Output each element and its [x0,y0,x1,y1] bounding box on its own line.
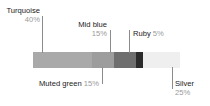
bar-segment-mid-blue[interactable] [114,52,136,68]
bar-segment-turquoise[interactable] [33,52,92,68]
leader-line-mid-blue [110,30,111,53]
callout-mid-blue-label: Mid blue [60,20,107,29]
stacked-bar [33,52,180,68]
leader-line-ruby [129,30,130,53]
callout-ruby-percent: 5% [153,29,164,38]
callout-silver-percent: 25% [175,88,209,97]
bar-segment-muted-green[interactable] [92,52,114,68]
callout-ruby[interactable]: Ruby 5% [133,29,164,38]
callout-turquoise[interactable]: Turquoise 40% [0,6,40,25]
leader-line-turquoise [42,16,43,53]
callout-turquoise-percent: 40% [0,15,40,24]
callout-turquoise-label: Turquoise [0,6,40,15]
bar-segment-silver[interactable] [143,52,180,68]
callout-silver[interactable]: Silver 25% [175,79,209,98]
callout-muted-green-percent: 15% [84,79,99,88]
callout-muted-green-label: Muted green [39,79,82,88]
callout-silver-label: Silver [175,79,209,88]
chart-canvas: Turquoise 40% Mid blue 15% Ruby 5% Muted… [0,0,210,106]
callout-mid-blue-percent: 15% [60,29,107,38]
leader-line-silver [172,67,173,89]
callout-mid-blue[interactable]: Mid blue 15% [60,20,107,39]
leader-line-muted-green [102,67,103,84]
callout-muted-green[interactable]: Muted green 15% [18,79,99,88]
bar-segment-ruby[interactable] [136,52,143,68]
callout-ruby-label: Ruby [133,29,151,38]
